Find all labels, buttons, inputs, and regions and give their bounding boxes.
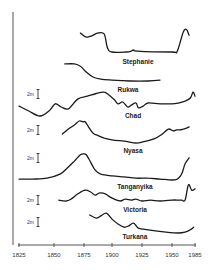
lake-label-turkana: Turkana — [123, 233, 148, 240]
scale-bar-chad: 2m — [27, 90, 39, 99]
lake-label-tanganyika: Tanganyika — [117, 183, 153, 191]
scale-bar-label: 2m — [27, 219, 34, 225]
x-tick-label: 1985 — [188, 252, 202, 258]
lake-level-line-nyasa — [62, 121, 189, 143]
lake-level-line-rukwa — [65, 64, 160, 81]
lake-label-nyasa: Nyasa — [123, 147, 143, 155]
lake-label-chad: Chad — [125, 112, 141, 119]
lake-level-line-chad — [19, 92, 195, 116]
scale-bars: 2m2m2m2m2m — [27, 90, 39, 227]
lake-label-victoria: Victoria — [123, 206, 147, 213]
lake-level-line-stephanie — [80, 29, 189, 53]
x-tick-label: 1825 — [12, 252, 26, 258]
lake-level-chart: 1825185018751900192519501985 StephanieRu… — [0, 0, 213, 270]
scale-bar-victoria: 2m — [27, 196, 39, 205]
scale-bar-label: 2m — [27, 91, 34, 97]
x-tick-label: 1875 — [77, 252, 91, 258]
x-tick-label: 1850 — [47, 252, 61, 258]
lake-label-rukwa: Rukwa — [118, 86, 139, 93]
x-tick-label: 1950 — [165, 252, 179, 258]
lake-curves — [19, 29, 195, 233]
lake-labels: StephanieRukwaChadNyasaTanganyikaVictori… — [117, 58, 154, 240]
lake-level-line-turkana — [90, 213, 194, 233]
scale-bar-label: 2m — [27, 155, 34, 161]
x-tick-label: 1925 — [135, 252, 149, 258]
scale-bar-label: 2m — [27, 127, 34, 133]
lake-level-line-tanganyika — [19, 154, 189, 180]
scale-bar-turkana: 2m — [27, 218, 39, 227]
scale-bar-tanganyika: 2m — [27, 154, 39, 163]
scale-bar-nyasa: 2m — [27, 126, 39, 135]
scale-bar-label: 2m — [27, 197, 34, 203]
x-tick-label: 1900 — [105, 252, 119, 258]
lake-label-stephanie: Stephanie — [122, 58, 153, 66]
